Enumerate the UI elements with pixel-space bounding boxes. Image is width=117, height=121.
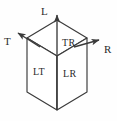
axis-label-L: L	[41, 6, 48, 17]
axis-label-R: R	[104, 44, 111, 55]
cube-geometry	[0, 0, 117, 121]
face-label-LR: LR	[63, 69, 76, 79]
cube-diagram: L T R TR LT LR	[0, 0, 117, 121]
face-label-LT: LT	[33, 67, 45, 77]
axis-label-T: T	[4, 36, 11, 47]
face-label-TR: TR	[62, 38, 75, 48]
